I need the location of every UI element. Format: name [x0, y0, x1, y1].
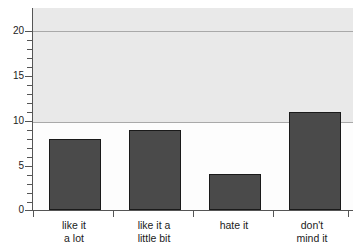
- y-tick-label-5-text: 5: [18, 160, 24, 171]
- bar-side-shadow: [285, 117, 290, 210]
- y-tick-label-15-text: 15: [13, 70, 24, 81]
- x-category-label-1-line2: little bit: [114, 232, 194, 245]
- y-tick-label-10: 10: [0, 116, 24, 126]
- bar-dont-mind-it[interactable]: [289, 112, 341, 210]
- bar-side-shadow: [45, 144, 50, 210]
- x-category-label-1-line1: like it a: [138, 219, 171, 231]
- y-tick-label-20: 20: [0, 26, 24, 36]
- x-tick-2: [193, 211, 194, 217]
- y-tick-15: [25, 76, 32, 77]
- x-category-label-3-line2: mind it: [274, 232, 350, 245]
- y-tick-label-0-text: 0: [18, 204, 24, 215]
- bar-side-shadow: [205, 179, 210, 210]
- x-category-label-3-line1: don't: [301, 219, 323, 231]
- bar-side-shadow: [125, 135, 130, 210]
- bar-like-it-a-lot[interactable]: [49, 139, 101, 210]
- x-category-label-2-line1: hate it: [220, 219, 249, 231]
- bar-chart: 20 15 10 5 0 like it a lot like it: [0, 0, 353, 245]
- y-tick-label-15: 15: [0, 71, 24, 81]
- y-tick-20: [25, 31, 32, 32]
- y-tick-label-5: 5: [0, 161, 24, 171]
- y-tick-0: [25, 210, 32, 211]
- x-category-label-1: like it a little bit: [114, 219, 194, 244]
- x-tick-1: [113, 211, 114, 217]
- x-category-label-0-line1: like it: [62, 219, 86, 231]
- y-tick-label-0: 0: [0, 205, 24, 215]
- x-category-label-3: don't mind it: [274, 219, 350, 244]
- x-tick-4: [348, 211, 349, 217]
- y-tick-5: [25, 166, 32, 167]
- bar-like-it-a-little-bit[interactable]: [129, 130, 181, 210]
- y-tick-label-20-text: 20: [13, 25, 24, 36]
- x-tick-3: [273, 211, 274, 217]
- x-category-label-0-line2: a lot: [34, 232, 114, 245]
- y-tick-label-10-text: 10: [13, 115, 24, 126]
- x-category-label-2: hate it: [194, 219, 274, 232]
- x-category-label-0: like it a lot: [34, 219, 114, 244]
- bar-hate-it[interactable]: [209, 174, 261, 210]
- x-tick-0: [33, 211, 34, 217]
- y-tick-10: [25, 121, 32, 122]
